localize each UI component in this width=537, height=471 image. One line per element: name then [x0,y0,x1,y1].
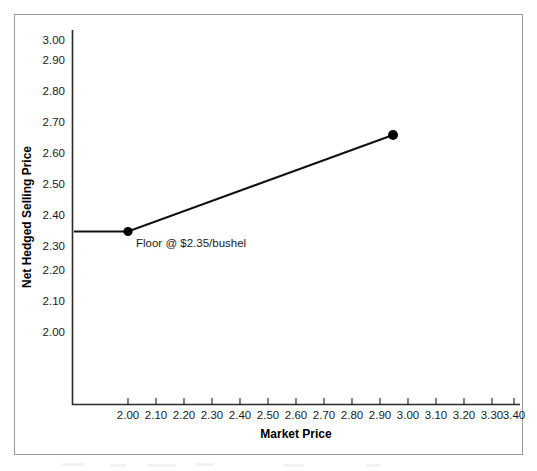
x-tick-label: 2.80 [341,409,363,421]
y-axis-tick-labels: 2.00 2.10 2.20 2.30 2.40 2.50 2.60 2.70 … [43,34,65,338]
y-axis-title: Net Hedged Selling Price [20,146,34,288]
axis-spines [73,30,521,405]
x-tick-label: 2.40 [229,409,251,421]
y-tick-label: 2.60 [43,147,65,159]
x-tick-label: 3.20 [453,409,475,421]
x-tick-label: 3.10 [425,409,447,421]
x-axis-title: Market Price [260,427,332,441]
x-tick-label: 2.50 [257,409,279,421]
y-tick-label: 2.50 [43,178,65,190]
x-tick-label: 2.60 [285,409,307,421]
x-tick-label: 2.30 [201,409,223,421]
x-tick-label: 2.10 [145,409,167,421]
y-tick-label: 2.10 [43,295,65,307]
data-point-marker [388,130,398,140]
annotation-floor-label: Floor @ $2.35/bushel [136,237,246,249]
x-axis-ticks [128,398,514,405]
x-tick-label: 2.20 [173,409,195,421]
x-tick-label: 3.40 [503,409,525,421]
y-tick-label: 2.00 [43,326,65,338]
figure-container: 2.00 2.10 2.20 2.30 2.40 2.50 2.60 2.70 … [0,0,537,471]
series-line-net-hedged-price [74,135,393,232]
y-tick-label: 2.70 [43,116,65,128]
x-tick-label: 3.30 [481,409,503,421]
y-tick-label: 2.90 [43,54,65,66]
x-axis-tick-labels: 2.00 2.10 2.20 2.30 2.40 2.50 2.60 2.70 … [117,409,525,421]
chart-plot: 2.00 2.10 2.20 2.30 2.40 2.50 2.60 2.70 … [0,0,537,471]
y-tick-label: 2.30 [43,240,65,252]
x-tick-label: 2.70 [313,409,335,421]
y-tick-label: 2.20 [43,264,65,276]
y-tick-label: 3.00 [43,34,65,46]
x-tick-label: 2.00 [117,409,139,421]
x-tick-label: 3.00 [397,409,419,421]
x-tick-label: 2.90 [369,409,391,421]
y-tick-label: 2.80 [43,85,65,97]
y-tick-label: 2.40 [43,209,65,221]
data-point-marker [123,227,132,236]
